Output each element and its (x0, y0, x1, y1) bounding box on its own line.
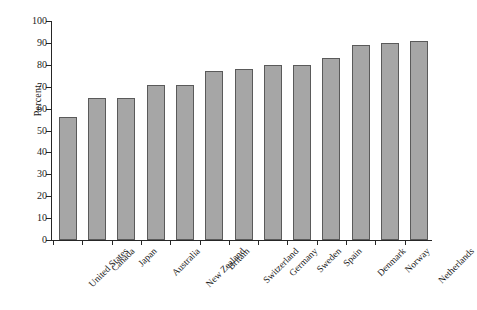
y-tick-label: 60 (37, 102, 47, 115)
x-tick-label: Spain (342, 246, 365, 269)
y-tick-label: 100 (32, 14, 47, 27)
x-tick-mark (112, 240, 113, 245)
x-tick-label: Sweden (315, 246, 344, 275)
plot-area: 0102030405060708090100 (51, 21, 432, 240)
x-tick-label: Denmark (375, 246, 408, 279)
x-tick-label: Britain (226, 246, 252, 272)
bar (117, 98, 135, 240)
x-tick-mark (375, 240, 376, 245)
bar (293, 65, 311, 240)
x-tick-mark (405, 240, 406, 245)
y-tick-label: 0 (42, 233, 47, 246)
bar (205, 71, 223, 240)
x-tick-mark (200, 240, 201, 245)
x-tick-mark (141, 240, 142, 245)
y-axis-line (51, 21, 52, 240)
bar (235, 69, 253, 240)
x-tick-mark (229, 240, 230, 245)
x-tick-mark (346, 240, 347, 245)
bar (59, 117, 77, 240)
x-tick-label: Norway (403, 246, 432, 275)
y-tick-label: 30 (37, 167, 47, 180)
x-tick-mark (258, 240, 259, 245)
x-tick-label: Netherlands (437, 246, 477, 286)
x-tick-mark (287, 240, 288, 245)
bar (264, 65, 282, 240)
x-tick-mark (53, 240, 54, 245)
y-tick-label: 70 (37, 80, 47, 93)
bar (322, 58, 340, 240)
x-tick-label: Japan (137, 246, 160, 269)
x-tick-mark (317, 240, 318, 245)
x-tick-mark (82, 240, 83, 245)
y-tick-label: 10 (37, 211, 47, 224)
y-tick-label: 40 (37, 145, 47, 158)
y-tick-label: 90 (37, 36, 47, 49)
bar (147, 85, 165, 240)
bar (410, 41, 428, 240)
y-tick-label: 80 (37, 58, 47, 71)
x-tick-label: Australia (170, 246, 202, 278)
y-tick-label: 20 (37, 189, 47, 202)
bar (88, 98, 106, 240)
x-tick-mark (170, 240, 171, 245)
bar (381, 43, 399, 240)
y-tick-label: 50 (37, 124, 47, 137)
bar (352, 45, 370, 240)
bar (176, 85, 194, 240)
